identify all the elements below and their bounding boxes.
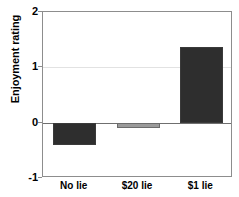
x-tick-label-20-lie: $20 lie <box>105 180 168 192</box>
bar-no-lie <box>53 123 96 145</box>
plot-area <box>42 11 232 177</box>
x-tick-label-no-lie: No lie <box>42 180 105 192</box>
y-tick-label-0: 0 <box>18 117 38 127</box>
y-tick-label-neg1: -1 <box>18 172 38 182</box>
x-tick-label-1-lie: $1 lie <box>169 180 232 192</box>
y-tick-label-1: 1 <box>18 61 38 71</box>
y-tick-mark-neg1 <box>38 177 42 178</box>
bar-1-lie <box>180 47 223 123</box>
y-tick-label-2: 2 <box>18 6 38 16</box>
bar-chart: Enjoyment rating 210-1 No lie$20 lie$1 l… <box>0 0 239 197</box>
bar-20-lie <box>117 123 160 129</box>
